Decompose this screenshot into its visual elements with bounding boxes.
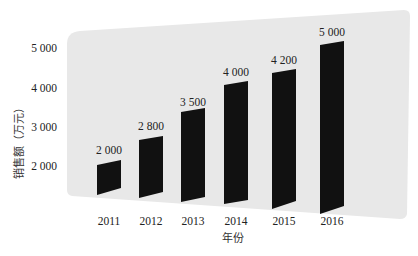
value-label: 2 800 — [138, 120, 164, 132]
x-tick: 2013 — [182, 215, 205, 227]
x-tick: 2012 — [140, 215, 163, 227]
x-tick: 2011 — [98, 215, 121, 227]
y-axis-label: 销售额（万元） — [12, 102, 26, 179]
bar-2014 — [224, 81, 248, 204]
y-tick: 4 000 — [31, 82, 57, 94]
y-tick: 2 000 — [31, 160, 57, 172]
value-label: 4 200 — [271, 54, 297, 66]
bar-2012 — [139, 136, 163, 198]
x-tick: 2016 — [321, 215, 344, 227]
bar-2013 — [181, 108, 205, 202]
value-label: 4 000 — [223, 66, 249, 78]
x-tick: 2014 — [225, 215, 248, 227]
bar-2016 — [320, 41, 344, 214]
value-label: 2 000 — [96, 144, 122, 156]
x-tick: 2015 — [273, 215, 296, 227]
bar-2015 — [272, 69, 296, 209]
bar-chart: 5 000 4 000 3 000 2 000 销售额（万元） 2 000 2 … — [0, 0, 418, 256]
value-label: 3 500 — [180, 96, 206, 108]
x-axis-label: 年份 — [222, 231, 244, 245]
y-tick: 5 000 — [31, 42, 57, 54]
y-tick: 3 000 — [31, 121, 57, 133]
value-label: 5 000 — [319, 26, 345, 38]
